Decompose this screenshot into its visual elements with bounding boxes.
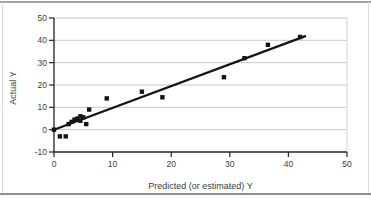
y-tick-label-20: 20 <box>38 80 48 90</box>
data-point-15 <box>222 75 226 79</box>
y-tick-label-0: 0 <box>42 125 47 135</box>
y-tick-label-50: 50 <box>38 13 48 23</box>
x-tick-label-20: 20 <box>166 159 176 169</box>
y-tick-label-30: 30 <box>38 58 48 68</box>
x-axis-label: Predicted (or estimated) Y <box>148 181 252 191</box>
data-point-12 <box>105 96 109 100</box>
data-point-0 <box>52 127 56 131</box>
x-tick-label-40: 40 <box>284 159 294 169</box>
y-tick-label--10: -10 <box>35 147 48 157</box>
data-point-14 <box>160 95 164 99</box>
scatter-plot: -100102030405001020304050 Predicted (or … <box>0 0 371 201</box>
x-tick-label-50: 50 <box>342 159 352 169</box>
data-point-9 <box>81 115 85 119</box>
bottom-rule <box>0 193 371 195</box>
data-point-1 <box>58 134 62 138</box>
x-tick-label-0: 0 <box>52 159 57 169</box>
y-axis-label: Actual Y <box>8 71 18 104</box>
data-point-10 <box>84 122 88 126</box>
data-point-17 <box>266 43 270 47</box>
data-point-11 <box>87 107 91 111</box>
trend-line <box>54 36 306 130</box>
figure-page: -100102030405001020304050 Predicted (or … <box>0 0 371 201</box>
data-point-13 <box>140 90 144 94</box>
data-point-16 <box>242 56 246 60</box>
x-tick-label-30: 30 <box>225 159 235 169</box>
data-point-2 <box>64 134 68 138</box>
x-tick-label-10: 10 <box>108 159 118 169</box>
y-tick-label-40: 40 <box>38 35 48 45</box>
data-point-18 <box>298 35 302 39</box>
y-tick-label-10: 10 <box>38 102 48 112</box>
